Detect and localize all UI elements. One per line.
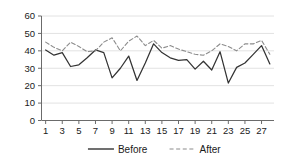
chart-legend: BeforeAfter bbox=[88, 144, 221, 155]
x-axis-tick-label: 17 bbox=[173, 125, 184, 136]
y-axis-tick-labels: 0102030405060 bbox=[24, 10, 35, 126]
series-line-before bbox=[46, 44, 270, 83]
x-axis-tick-label: 11 bbox=[124, 125, 134, 136]
y-axis-tick-label: 0 bbox=[30, 115, 35, 126]
x-axis-tick-label: 25 bbox=[240, 125, 251, 136]
legend-label-after: After bbox=[200, 144, 222, 155]
y-axis-tick-label: 10 bbox=[24, 97, 35, 108]
x-axis-tick-label: 27 bbox=[256, 125, 267, 136]
data-series-group bbox=[46, 36, 270, 83]
series-line-after bbox=[46, 36, 270, 55]
x-axis-tick-label: 3 bbox=[60, 125, 65, 136]
x-axis-ticks bbox=[46, 121, 262, 125]
x-axis-tick-label: 19 bbox=[190, 125, 201, 136]
x-axis-tick-label: 15 bbox=[157, 125, 168, 136]
x-axis-tick-label: 9 bbox=[109, 125, 114, 136]
x-axis-tick-label: 21 bbox=[206, 125, 217, 136]
y-axis-tick-label: 30 bbox=[24, 63, 35, 74]
line-chart: 0102030405060 13579111315171921232527 Be… bbox=[0, 0, 282, 164]
x-axis-tick-label: 23 bbox=[223, 125, 234, 136]
x-axis-tick-label: 1 bbox=[43, 125, 48, 136]
gridlines bbox=[42, 16, 275, 103]
chart-canvas: 0102030405060 13579111315171921232527 Be… bbox=[0, 0, 282, 164]
x-axis-tick-label: 5 bbox=[76, 125, 81, 136]
x-axis-tick-label: 7 bbox=[93, 125, 98, 136]
y-axis-tick-label: 60 bbox=[24, 10, 35, 21]
y-axis-ticks bbox=[38, 16, 42, 121]
x-axis-tick-label: 13 bbox=[140, 125, 151, 136]
y-axis-tick-label: 40 bbox=[24, 45, 35, 56]
legend-label-before: Before bbox=[118, 144, 148, 155]
y-axis-tick-label: 20 bbox=[24, 80, 35, 91]
x-axis-tick-labels: 13579111315171921232527 bbox=[43, 125, 267, 136]
y-axis-tick-label: 50 bbox=[24, 28, 35, 39]
